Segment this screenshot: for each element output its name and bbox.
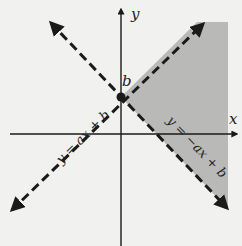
line-label-y-ax-plus-b: y = ax + b [52, 107, 112, 167]
intercept-point [117, 93, 126, 102]
coordinate-plane: y x b y = ax + b y = −ax + b [0, 0, 242, 246]
x-axis-label: x [229, 110, 238, 128]
y-axis-label: y [130, 5, 140, 23]
intercept-label: b [122, 72, 132, 90]
